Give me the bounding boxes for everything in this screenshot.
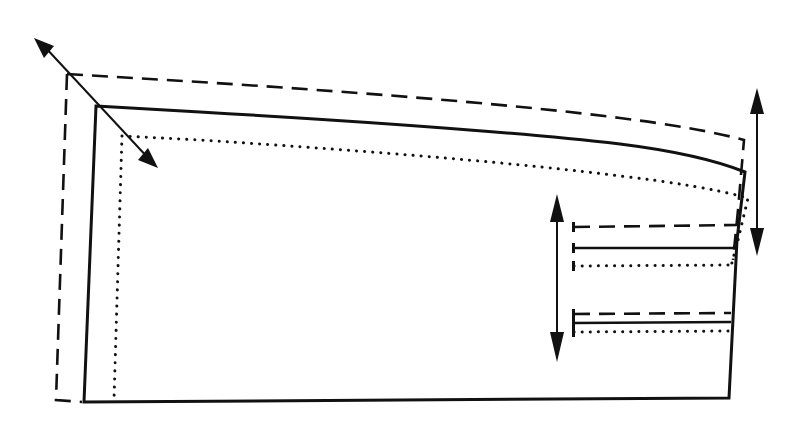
dart-lines-upper xyxy=(572,222,738,271)
right-edge-arrow-icon xyxy=(750,88,764,256)
grading-diagram xyxy=(0,0,800,428)
outline-solid xyxy=(84,106,745,402)
dart-arrow-icon xyxy=(550,194,564,362)
outline-dotted xyxy=(114,136,748,400)
dart-lines-lower xyxy=(572,309,731,337)
corner-arrow-icon xyxy=(34,38,158,168)
